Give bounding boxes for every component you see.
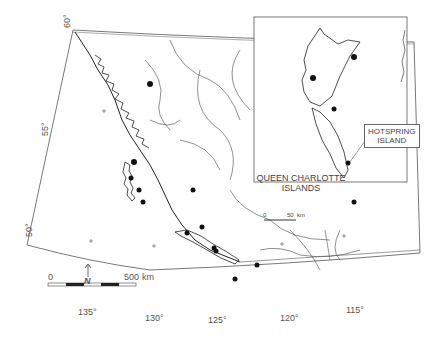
lon-label-135: 135° [78,307,97,317]
lat-label-50: 50° [24,223,34,237]
coastline [75,32,240,262]
scale-unit: km [142,272,154,282]
inset-frame [254,17,407,182]
lon-label-120: 120° [280,313,299,323]
lon-label-115: 115° [346,305,364,315]
site-markers [129,81,260,282]
hotspring-island-callout: HOTSPRING ISLAND [364,124,420,148]
scale-start: 0 [48,272,53,282]
inset-scale-start: 0 [263,212,266,218]
lon-label-125: 125° [208,315,227,325]
lat-label-55: 55° [40,122,50,136]
north-label: N [84,276,91,286]
queen-charlotte-islands [123,162,135,201]
main-scale-bar [48,283,136,286]
inset-scale-unit: km [297,212,305,218]
lat-label-60: 60° [62,14,72,28]
vancouver-island [175,230,239,264]
map-canvas [0,0,430,340]
lon-label-130: 130° [145,313,164,323]
scale-end: 500 [124,272,139,282]
inset-title: QUEEN CHARLOTTE ISLANDS [256,173,346,193]
inset-scale-end: 50 [287,212,294,218]
